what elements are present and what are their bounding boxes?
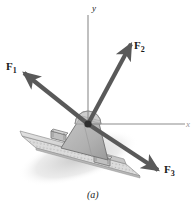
- force-label-F2-base: F: [134, 39, 141, 51]
- force-label-F1-base: F: [6, 60, 13, 72]
- origin-point: [84, 120, 91, 127]
- force-label-F2: F2: [134, 40, 145, 54]
- force-label-F3-subscript: 3: [171, 169, 175, 178]
- coordinate-axes: [88, 15, 185, 124]
- y-axis-label: y: [92, 4, 96, 13]
- force-label-F1-subscript: 1: [13, 66, 17, 75]
- force-vector-F1: [24, 73, 88, 124]
- force-vector-F2: [88, 44, 131, 124]
- force-label-F2-subscript: 2: [141, 45, 145, 54]
- figure-caption: (a): [87, 190, 99, 200]
- force-label-F3: F3: [164, 164, 175, 178]
- force-diagram-figure: F1 F2 F3 y x (a): [0, 0, 195, 210]
- force-label-F1: F1: [6, 61, 17, 75]
- x-axis-label: x: [186, 120, 190, 129]
- force-label-F3-base: F: [164, 163, 171, 175]
- diagram-canvas: [0, 0, 195, 210]
